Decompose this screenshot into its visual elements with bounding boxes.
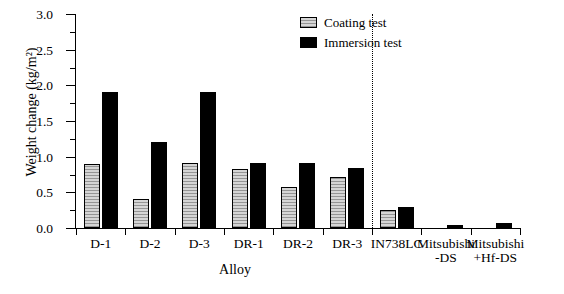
x-tick-label: IN738LC — [371, 237, 423, 251]
x-tick — [273, 228, 274, 235]
legend-label-immersion: Immersion test — [324, 36, 402, 49]
x-tick-label: D-1 — [90, 237, 111, 251]
plot-area: 0.00.51.01.52.02.53.0 D-1D-2D-3DR-1DR-2D… — [75, 14, 520, 229]
y-tick-label: 0.5 — [36, 185, 53, 201]
y-tick-label: 2.0 — [36, 78, 53, 94]
x-tick — [323, 228, 324, 235]
y-tick-label: 0.0 — [36, 221, 53, 237]
y-tick: 2.0 — [66, 85, 76, 86]
legend-swatch-coating — [300, 17, 317, 28]
x-tick — [175, 228, 176, 235]
x-tick-label: D-3 — [189, 237, 210, 251]
x-tick — [471, 228, 472, 235]
x-tick-label: D-2 — [140, 237, 161, 251]
x-tick — [372, 228, 373, 235]
x-axis-title: Alloy — [75, 262, 395, 278]
y-tick: 2.5 — [66, 50, 76, 51]
legend-entry-coating: Coating test — [300, 16, 402, 29]
legend-entry-immersion: Immersion test — [300, 36, 402, 49]
x-tick — [125, 228, 126, 235]
x-tick-label: Mitsubishi+Hf-DS — [466, 237, 524, 265]
y-tick: 1.0 — [66, 157, 76, 158]
x-tick-label: DR-2 — [283, 237, 313, 251]
x-tick-label: DR-3 — [332, 237, 362, 251]
y-tick: 1.5 — [66, 121, 76, 122]
y-tick: 3.0 — [66, 14, 76, 15]
bar-immersion-test — [496, 223, 512, 228]
y-tick: 0.5 — [66, 192, 76, 193]
x-tick-label: DR-1 — [234, 237, 264, 251]
chart-legend: Coating test Immersion test — [300, 16, 402, 56]
y-tick: 0.0 — [66, 228, 76, 229]
y-tick-label: 1.5 — [36, 114, 53, 130]
x-tick — [421, 228, 422, 235]
x-tick — [520, 228, 521, 235]
y-tick-label: 2.5 — [36, 43, 53, 59]
x-tick — [224, 228, 225, 235]
weight-change-bar-chart: Weight change (kg/m²) 0.00.51.01.52.02.5… — [0, 0, 564, 294]
legend-label-coating: Coating test — [324, 16, 386, 29]
y-tick-label: 3.0 — [36, 7, 53, 23]
bar-group — [76, 14, 520, 228]
y-tick-label: 1.0 — [36, 150, 53, 166]
x-tick — [76, 228, 77, 235]
legend-swatch-immersion — [300, 37, 317, 48]
